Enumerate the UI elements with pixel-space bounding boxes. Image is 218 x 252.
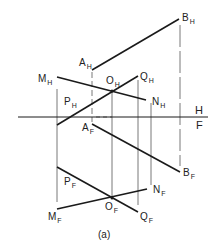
descriptive-geometry-figure: BH AH MH OH QH NH PH H F AF BF PF NF OF … <box>0 0 218 252</box>
line-ab-top <box>92 19 179 70</box>
label-q-front: QF <box>140 211 153 224</box>
figure-caption: (a) <box>98 229 110 240</box>
fold-label-h: H <box>195 104 203 116</box>
label-b-top: BH <box>182 12 195 25</box>
point-o-front <box>111 197 114 200</box>
label-q-top: QH <box>140 71 154 84</box>
label-n-front: NF <box>153 184 166 197</box>
line-ab-front <box>92 124 180 172</box>
label-o-front: OF <box>105 201 118 214</box>
label-n-top: NH <box>152 96 165 109</box>
label-b-front: BF <box>183 167 195 180</box>
label-o-top: OH <box>106 75 120 88</box>
label-a-top: AH <box>79 57 92 70</box>
label-m-top: MH <box>38 73 52 86</box>
label-p-front: PF <box>64 176 76 189</box>
front-view <box>57 124 180 212</box>
label-m-front: MF <box>48 211 62 224</box>
plane-trace-front <box>57 167 138 212</box>
fold-label-f: F <box>196 119 203 131</box>
point-o-top <box>111 90 114 93</box>
top-view <box>57 19 179 125</box>
label-p-top: PH <box>64 96 77 109</box>
